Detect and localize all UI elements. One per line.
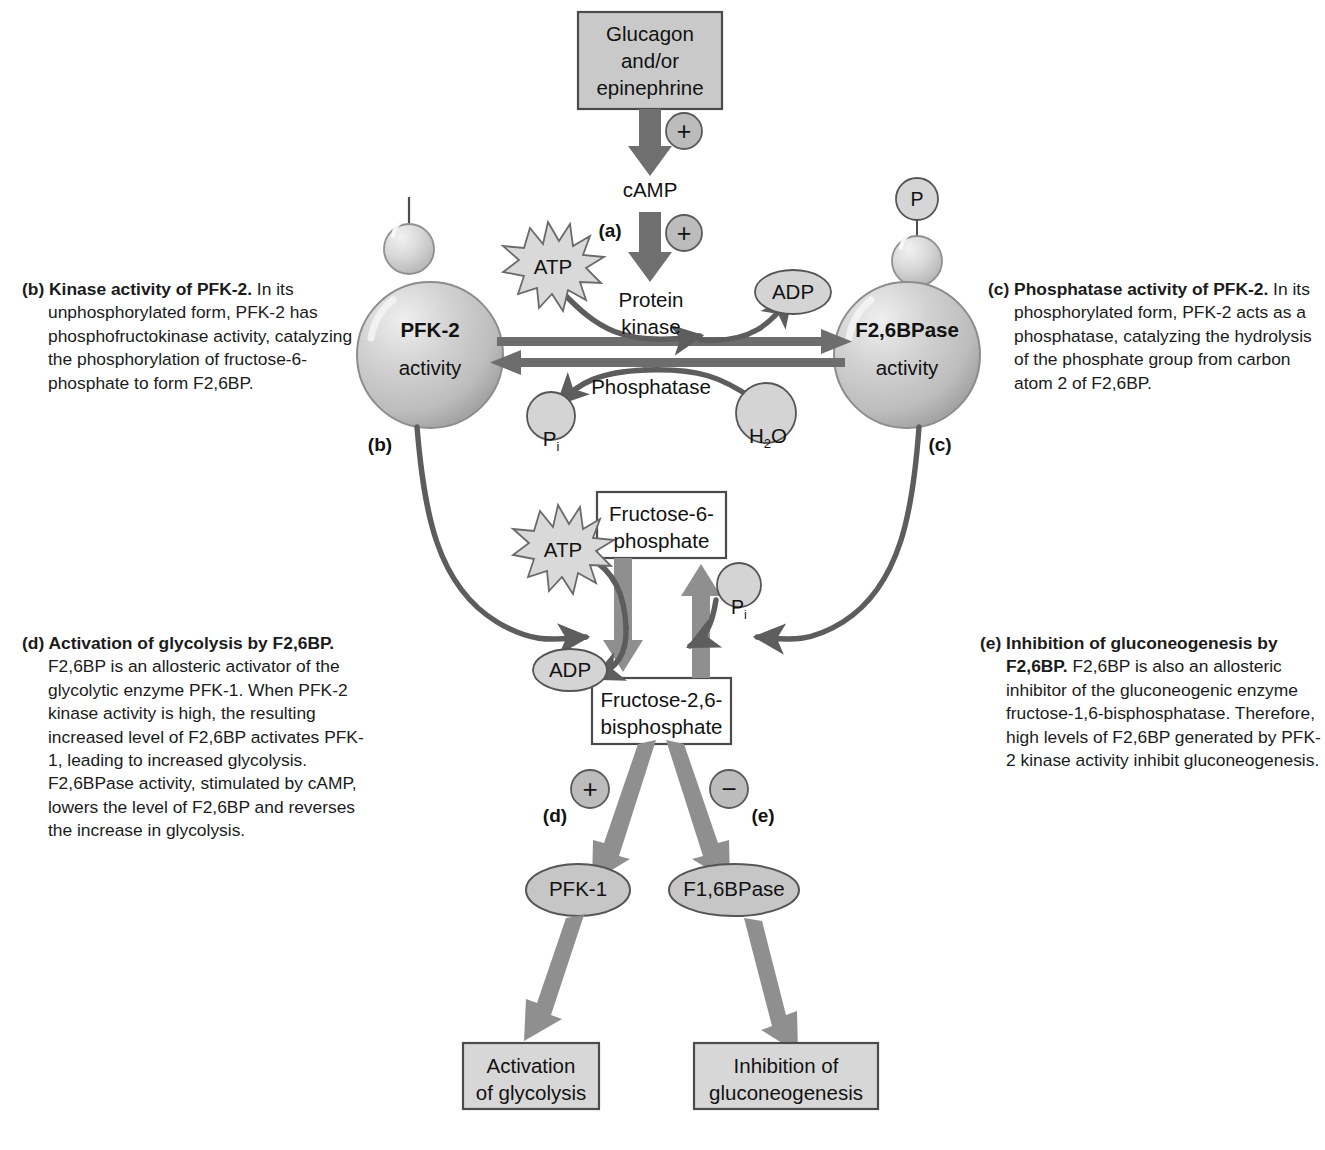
arrow-f26bp-to-f16bpase (666, 740, 730, 882)
pi-circle-middle (717, 563, 761, 607)
caption-c-marker: (c) (988, 279, 1009, 299)
h2o-to-phosphatase-curve (645, 370, 752, 398)
activation-box (463, 1043, 599, 1109)
plus-circle-pfk1 (571, 770, 609, 808)
caption-b: (b) Kinase activity of PFK-2. In its unp… (22, 278, 360, 395)
f26bp-box (592, 678, 731, 744)
pfk2-enzyme-sphere (357, 197, 503, 428)
arrow-pfk1-to-activation (524, 915, 584, 1041)
caption-d-bold: Activation of glycolysis by F2,6BP. (48, 633, 334, 653)
arrow-f26bp-to-pfk1 (592, 740, 656, 882)
adp-ellipse-middle (533, 649, 607, 691)
arrow-f16bpase-to-inhibition (744, 918, 798, 1053)
caption-e-marker: (e) (980, 633, 1001, 653)
hormone-box-group (578, 12, 722, 109)
caption-c-bold: Phosphatase activity of PFK-2. (1014, 279, 1268, 299)
h2o-circle (736, 383, 796, 443)
pfk1-oval (526, 864, 630, 916)
caption-c: (c) Phosphatase activity of PFK-2. In it… (988, 278, 1325, 395)
plus-circle-camp (666, 215, 702, 251)
arrow-f26bp-to-f6p (681, 564, 721, 678)
plus-circle-hormone (666, 113, 702, 149)
f26bpase-enzyme-sphere (834, 178, 980, 428)
caption-d-body: F2,6BP is an allosteric activator of the… (48, 656, 364, 840)
arrow-hormone-to-camp (628, 109, 672, 176)
atp-starburst-upper-icon (503, 222, 604, 311)
caption-d-marker: (d) (22, 633, 44, 653)
f6p-box (597, 492, 726, 558)
caption-b-marker: (b) (22, 279, 44, 299)
inhibition-box (694, 1043, 878, 1109)
f16bpase-oval (669, 864, 799, 916)
caption-d: (d) Activation of glycolysis by F2,6BP. … (22, 632, 368, 843)
f26bpase-to-pathway-curve (757, 427, 919, 639)
caption-e: (e) Inhibition of gluconeogenesis by F2,… (980, 632, 1325, 772)
arrow-camp-to-kinase (628, 212, 672, 282)
phosphatase-to-pi-curve (559, 370, 645, 403)
minus-circle-f16bpase (710, 770, 748, 808)
caption-b-bold: Kinase activity of PFK-2. (49, 279, 252, 299)
pi-circle-upper (527, 392, 575, 440)
adp-ellipse-upper (755, 270, 831, 314)
